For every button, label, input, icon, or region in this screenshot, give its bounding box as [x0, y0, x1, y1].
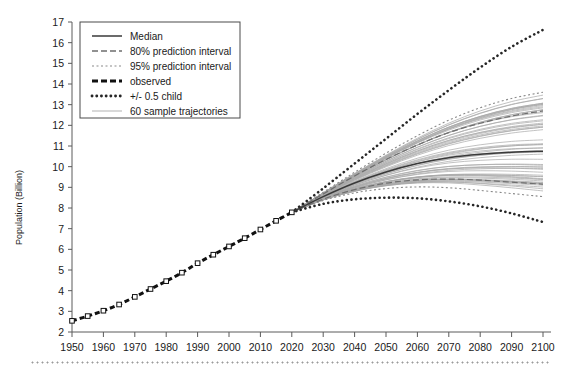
observed-marker [274, 219, 279, 224]
y-tick-label: 4 [58, 285, 64, 297]
observed-marker [258, 227, 263, 232]
y-tick-label: 16 [52, 37, 64, 49]
observed-marker [85, 314, 90, 319]
legend-label: 60 sample trajectories [130, 106, 228, 117]
legend-label: 95% prediction interval [130, 61, 231, 72]
legend-label: observed [130, 76, 171, 87]
x-tick-label: 1990 [186, 341, 210, 353]
x-tick-label: 1950 [60, 341, 84, 353]
legend-label: +/- 0.5 child [130, 91, 182, 102]
y-tick-label: 2 [58, 326, 64, 338]
observed-marker [211, 252, 216, 257]
y-tick-label: 3 [58, 305, 64, 317]
x-tick-label: 2000 [217, 341, 241, 353]
y-tick-label: 7 [58, 223, 64, 235]
y-tick-label: 15 [52, 57, 64, 69]
observed-marker [101, 308, 106, 313]
observed-marker [290, 210, 295, 215]
observed-marker [164, 279, 169, 284]
x-tick-label: 2010 [249, 341, 273, 353]
chart-legend: Median80% prediction interval95% predict… [80, 22, 240, 118]
legend-label: 80% prediction interval [130, 46, 231, 57]
chart-svg: 2345678910111213141516171950196019701980… [0, 0, 565, 376]
x-tick-label: 2090 [500, 341, 524, 353]
observed-marker [195, 261, 200, 266]
y-tick-label: 10 [52, 161, 64, 173]
y-axis-label: Population (Billion) [14, 170, 24, 245]
x-tick-label: 2040 [343, 341, 367, 353]
x-tick-label: 2050 [374, 341, 398, 353]
x-tick-label: 2080 [469, 341, 493, 353]
population-projection-chart: 2345678910111213141516171950196019701980… [0, 0, 565, 376]
x-tick-label: 2030 [312, 341, 336, 353]
x-tick-label: 1980 [155, 341, 179, 353]
y-tick-label: 14 [52, 78, 64, 90]
y-tick-label: 9 [58, 181, 64, 193]
x-tick-label: 2100 [531, 341, 555, 353]
observed-marker [148, 287, 153, 292]
x-tick-label: 1960 [92, 341, 116, 353]
observed-marker [117, 302, 122, 307]
legend-label: Median [130, 31, 163, 42]
observed-marker [227, 244, 232, 249]
y-tick-label: 8 [58, 202, 64, 214]
footer-divider [30, 361, 550, 364]
observed-marker [180, 270, 185, 275]
observed-marker [242, 236, 247, 241]
y-tick-label: 11 [53, 140, 64, 152]
y-tick-label: 6 [58, 243, 64, 255]
observed-marker [70, 319, 75, 324]
observed-marker [133, 295, 138, 300]
x-tick-label: 2020 [280, 341, 304, 353]
x-tick-label: 2070 [437, 341, 461, 353]
y-tick-label: 13 [52, 99, 64, 111]
y-tick-label: 17 [52, 16, 64, 28]
y-tick-label: 5 [58, 264, 64, 276]
y-tick-label: 12 [52, 119, 64, 131]
x-tick-label: 2060 [406, 341, 430, 353]
x-tick-label: 1970 [123, 341, 147, 353]
